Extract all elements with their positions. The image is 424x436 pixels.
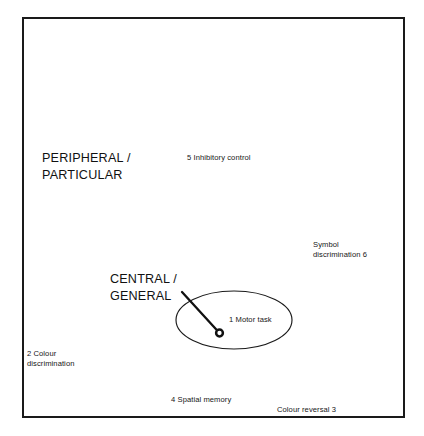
axis-pole-peripheral-particular: PERIPHERAL / PARTICULAR [42, 150, 131, 183]
task-label-symbol-discrimination: Symbol discrimination 6 [313, 240, 367, 260]
task-label-motor-task: 1 Motor task [229, 315, 272, 325]
figure-root: PERIPHERAL / PARTICULAR CENTRAL / GENERA… [0, 0, 424, 436]
task-label-colour-reversal: Colour reversal 3 [277, 405, 336, 415]
task-label-spatial-memory: 4 Spatial memory [171, 395, 231, 405]
plot-frame [22, 17, 405, 418]
task-label-colour-discrimination: 2 Colour discrimination [27, 349, 75, 369]
axis-pole-central-general: CENTRAL / GENERAL [110, 271, 177, 304]
task-label-inhibitory-control: 5 Inhibitory control [187, 153, 251, 163]
